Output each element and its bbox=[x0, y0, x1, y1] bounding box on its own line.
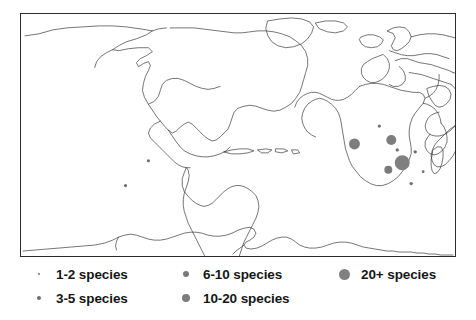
legend-item-3-5-species: 3-5 species bbox=[28, 286, 128, 310]
legend-label-6-10-species: 6-10 species bbox=[197, 267, 282, 282]
legend-column-3: 20+ species bbox=[333, 262, 436, 286]
legend-label-10-20-species: 10-20 species bbox=[197, 291, 290, 306]
legend-column-2: 6-10 species 10-20 species bbox=[175, 262, 290, 310]
species-data-point bbox=[395, 155, 410, 170]
species-data-points bbox=[124, 124, 425, 187]
legend-item-20-plus-species: 20+ species bbox=[333, 262, 436, 286]
legend-marker-10-20-species-icon bbox=[175, 294, 197, 302]
legend-label-1-2-species: 1-2 species bbox=[50, 267, 128, 282]
species-data-point bbox=[147, 159, 150, 162]
legend-label-20-plus-species: 20+ species bbox=[355, 267, 436, 282]
species-data-point bbox=[124, 184, 127, 187]
legend-marker-1-2-species-icon bbox=[28, 273, 50, 275]
world-map-svg bbox=[21, 14, 455, 256]
legend-item-1-2-species: 1-2 species bbox=[28, 262, 128, 286]
species-data-point bbox=[384, 166, 392, 174]
legend-dot bbox=[182, 294, 190, 302]
legend-dot bbox=[183, 271, 189, 277]
legend-label-3-5-species: 3-5 species bbox=[50, 291, 128, 306]
legend-column-1: 1-2 species 3-5 species bbox=[28, 262, 128, 310]
legend-dot bbox=[339, 269, 350, 280]
legend-dot bbox=[37, 296, 41, 300]
legend-dot bbox=[38, 273, 40, 275]
legend-item-6-10-species: 6-10 species bbox=[175, 262, 290, 286]
species-data-point bbox=[349, 138, 360, 149]
species-data-point bbox=[378, 124, 381, 127]
map-frame bbox=[20, 13, 456, 257]
species-data-point bbox=[410, 182, 413, 185]
legend-marker-6-10-species-icon bbox=[175, 271, 197, 277]
legend: 1-2 species 3-5 species 6-10 species bbox=[20, 262, 466, 314]
species-data-point bbox=[413, 150, 416, 153]
species-distribution-figure: 1-2 species 3-5 species 6-10 species bbox=[0, 0, 476, 320]
legend-marker-3-5-species-icon bbox=[28, 296, 50, 300]
legend-marker-20-plus-species-icon bbox=[333, 269, 355, 280]
species-data-point bbox=[396, 148, 399, 151]
species-data-point bbox=[386, 135, 396, 145]
species-data-point bbox=[422, 170, 425, 173]
legend-item-10-20-species: 10-20 species bbox=[175, 286, 290, 310]
